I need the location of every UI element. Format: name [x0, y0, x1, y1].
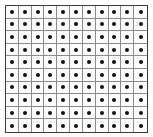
lattice-cell: [134, 82, 147, 95]
lattice-cell: [134, 69, 147, 82]
lattice-cell: [44, 107, 57, 120]
lattice-dot-icon: [139, 10, 143, 14]
lattice-dot-icon: [23, 98, 27, 102]
lattice-dot-icon: [74, 35, 78, 39]
lattice-dot-icon: [10, 10, 14, 14]
lattice-cell: [83, 56, 96, 69]
lattice-cell: [70, 107, 83, 120]
lattice-dot-icon: [48, 85, 52, 89]
lattice-dot-icon: [139, 111, 143, 115]
lattice-cell: [121, 31, 134, 44]
lattice-cell: [109, 44, 122, 57]
lattice-cell: [32, 31, 45, 44]
lattice-cell: [109, 56, 122, 69]
lattice-cell: [57, 82, 70, 95]
lattice-dot-icon: [10, 111, 14, 115]
lattice-dot-icon: [139, 124, 143, 128]
lattice-dot-icon: [74, 98, 78, 102]
lattice-dot-icon: [125, 98, 129, 102]
lattice-dot-icon: [74, 22, 78, 26]
lattice-cell: [134, 107, 147, 120]
lattice-dot-icon: [87, 85, 91, 89]
lattice-cell: [96, 44, 109, 57]
lattice-dot-icon: [112, 73, 116, 77]
lattice-cell: [70, 56, 83, 69]
lattice-dot-icon: [61, 85, 65, 89]
lattice-cell: [32, 107, 45, 120]
lattice-dot-icon: [87, 73, 91, 77]
lattice-dot-icon: [48, 124, 52, 128]
lattice-dot-icon: [23, 35, 27, 39]
lattice-cell: [44, 119, 57, 132]
lattice-cell: [83, 69, 96, 82]
lattice-dot-icon: [61, 22, 65, 26]
lattice-dot-icon: [23, 85, 27, 89]
lattice-dot-icon: [139, 85, 143, 89]
lattice-dot-icon: [74, 111, 78, 115]
lattice-dot-icon: [100, 98, 104, 102]
lattice-cell: [96, 19, 109, 32]
lattice-cell: [19, 44, 32, 57]
lattice-dot-icon: [36, 60, 40, 64]
lattice-cell: [32, 69, 45, 82]
lattice-dot-icon: [100, 111, 104, 115]
lattice-dot-icon: [61, 10, 65, 14]
lattice-dot-icon: [100, 10, 104, 14]
lattice-dot-icon: [125, 48, 129, 52]
lattice-dot-icon: [112, 124, 116, 128]
lattice-dot-icon: [100, 124, 104, 128]
lattice-dot-icon: [36, 111, 40, 115]
lattice-dot-icon: [125, 60, 129, 64]
lattice-dot-icon: [61, 98, 65, 102]
lattice-cell: [32, 19, 45, 32]
lattice-cell: [109, 31, 122, 44]
lattice-cell: [19, 6, 32, 19]
lattice-cell: [109, 82, 122, 95]
lattice-cell: [32, 44, 45, 57]
lattice-dot-icon: [36, 98, 40, 102]
lattice-dot-icon: [23, 22, 27, 26]
lattice-cell: [83, 94, 96, 107]
lattice-cell: [83, 44, 96, 57]
lattice-cell: [6, 56, 19, 69]
lattice-cell: [6, 44, 19, 57]
lattice-dot-icon: [87, 60, 91, 64]
lattice-cell: [96, 69, 109, 82]
lattice-dot-icon: [125, 10, 129, 14]
lattice-cell: [109, 6, 122, 19]
lattice-cell: [83, 119, 96, 132]
lattice-cell: [44, 69, 57, 82]
lattice-cell: [121, 56, 134, 69]
lattice-cell: [121, 119, 134, 132]
lattice-dot-icon: [23, 73, 27, 77]
lattice-cell: [134, 119, 147, 132]
lattice-cell: [109, 69, 122, 82]
lattice-dot-icon: [100, 35, 104, 39]
lattice-dot-icon: [10, 60, 14, 64]
lattice-cell: [32, 6, 45, 19]
lattice-dot-icon: [10, 22, 14, 26]
lattice-cell: [121, 94, 134, 107]
lattice-dot-icon: [125, 73, 129, 77]
lattice-cell: [109, 19, 122, 32]
lattice-cell: [57, 69, 70, 82]
lattice-dot-icon: [48, 73, 52, 77]
lattice-dot-icon: [87, 22, 91, 26]
lattice-dot-icon: [36, 48, 40, 52]
lattice-dot-icon: [61, 111, 65, 115]
lattice-cell: [6, 69, 19, 82]
lattice-dot-icon: [87, 111, 91, 115]
lattice-cell: [83, 6, 96, 19]
lattice-cell: [6, 6, 19, 19]
lattice-cell: [32, 119, 45, 132]
lattice-dot-icon: [74, 48, 78, 52]
lattice-cell: [19, 82, 32, 95]
dot-lattice-figure: [0, 0, 153, 137]
lattice-cell: [57, 119, 70, 132]
lattice-dot-icon: [36, 10, 40, 14]
lattice-dot-icon: [112, 35, 116, 39]
lattice-cell: [57, 94, 70, 107]
lattice-dot-icon: [23, 48, 27, 52]
lattice-dot-icon: [36, 85, 40, 89]
lattice-cell: [109, 119, 122, 132]
